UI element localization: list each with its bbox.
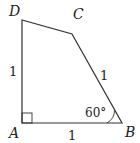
quadrilateral-diagram: D C A B 1 1 1 60°: [0, 0, 140, 143]
side-label-ab: 1: [68, 128, 76, 143]
vertex-label-d: D: [8, 3, 20, 19]
right-angle-marker: [22, 113, 32, 123]
angle-arc-b: [107, 110, 115, 123]
vertex-label-a: A: [7, 125, 19, 141]
side-label-ad: 1: [9, 64, 17, 79]
vertex-label-b: B: [124, 124, 135, 140]
angle-label-b: 60°: [85, 106, 106, 120]
side-label-bc: 1: [100, 68, 108, 83]
vertex-label-c: C: [73, 6, 84, 22]
